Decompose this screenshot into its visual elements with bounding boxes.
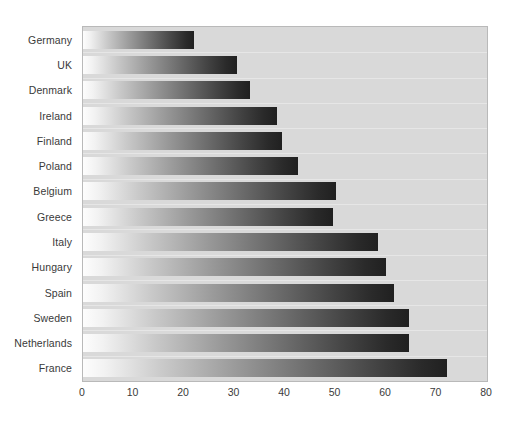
row-separator	[83, 78, 487, 79]
category-label: Hungary	[0, 261, 72, 273]
bar-row	[83, 284, 487, 302]
bar-row	[83, 334, 487, 352]
bar-row	[83, 81, 487, 99]
x-tick-label: 20	[177, 386, 189, 398]
bar	[83, 334, 409, 352]
bar-row	[83, 31, 487, 49]
bar-row	[83, 157, 487, 175]
category-label: Ireland	[0, 110, 72, 122]
bar-row	[83, 359, 487, 377]
x-tick-label: 60	[379, 386, 391, 398]
bar	[83, 107, 277, 125]
category-axis-labels: GermanyUKDenmarkIrelandFinlandPolandBelg…	[0, 27, 72, 382]
bar-row	[83, 208, 487, 226]
bar-row	[83, 107, 487, 125]
category-label: Greece	[0, 211, 72, 223]
bar	[83, 31, 194, 49]
row-separator	[83, 280, 487, 281]
x-tick-label: 30	[228, 386, 240, 398]
x-tick-label: 0	[79, 386, 85, 398]
bar	[83, 284, 394, 302]
row-separator	[83, 229, 487, 230]
bar-row	[83, 56, 487, 74]
category-label: Germany	[0, 34, 72, 46]
row-separator	[83, 52, 487, 53]
bar	[83, 359, 447, 377]
x-tick-label: 10	[127, 386, 139, 398]
x-tick-label: 40	[278, 386, 290, 398]
category-label: Finland	[0, 135, 72, 147]
bar	[83, 182, 336, 200]
row-separator	[83, 305, 487, 306]
row-separator	[83, 128, 487, 129]
bar	[83, 56, 237, 74]
row-separator	[83, 179, 487, 180]
x-tick-label: 50	[329, 386, 341, 398]
bar-row	[83, 132, 487, 150]
row-separator	[83, 255, 487, 256]
bar-row	[83, 233, 487, 251]
row-separator	[83, 330, 487, 331]
category-label: Spain	[0, 287, 72, 299]
bar	[83, 258, 386, 276]
bar	[83, 309, 409, 327]
x-tick-label: 80	[480, 386, 492, 398]
x-tick-label: 70	[430, 386, 442, 398]
category-label: Italy	[0, 236, 72, 248]
category-label: Belgium	[0, 185, 72, 197]
x-axis-tick-labels: 01020304050607080	[0, 386, 511, 406]
row-separator	[83, 204, 487, 205]
bar	[83, 208, 333, 226]
category-label: Netherlands	[0, 337, 72, 349]
bar	[83, 132, 282, 150]
plot-area	[82, 26, 488, 382]
category-label: UK	[0, 59, 72, 71]
bar-chart: GermanyUKDenmarkIrelandFinlandPolandBelg…	[0, 0, 511, 433]
category-label: Poland	[0, 160, 72, 172]
bar	[83, 233, 378, 251]
row-separator	[83, 103, 487, 104]
category-label: Denmark	[0, 84, 72, 96]
bar-row	[83, 309, 487, 327]
category-label: Sweden	[0, 312, 72, 324]
category-label: France	[0, 362, 72, 374]
bar	[83, 157, 298, 175]
bar-row	[83, 258, 487, 276]
row-separator	[83, 153, 487, 154]
plot-inner	[83, 27, 487, 381]
row-separator	[83, 356, 487, 357]
bar-row	[83, 182, 487, 200]
bar	[83, 81, 250, 99]
